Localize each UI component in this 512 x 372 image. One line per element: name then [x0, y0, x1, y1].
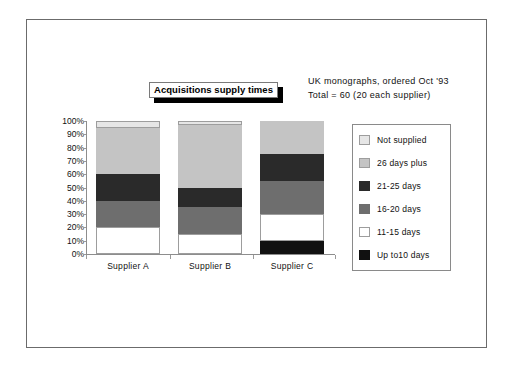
bar-segment[interactable] — [96, 201, 160, 228]
page-title: Acquisitions supply times — [150, 83, 277, 97]
bar-segment[interactable] — [178, 125, 242, 188]
bar-segment[interactable] — [96, 128, 160, 175]
bar-segment[interactable] — [260, 154, 324, 181]
x-axis-label-supplier-b: Supplier B — [165, 260, 255, 272]
x-axis-label-supplier-c: Supplier C — [247, 260, 337, 272]
y-axis-tick-label: 40% — [52, 196, 84, 206]
legend-swatch-icon — [359, 227, 370, 237]
chart-legend: Not supplied26 days plus21-25 days16-20 … — [352, 124, 451, 271]
bar-supplier-c[interactable] — [260, 121, 324, 254]
bar-segment[interactable] — [96, 227, 160, 254]
legend-item-label: 26 days plus — [377, 158, 427, 168]
bar-segment[interactable] — [260, 121, 324, 154]
bar-segment[interactable] — [178, 121, 242, 125]
bar-segment[interactable] — [96, 174, 160, 201]
legend-item-label: Up to10 days — [377, 250, 430, 260]
x-axis-tick-mark — [170, 255, 171, 259]
bar-segment[interactable] — [260, 214, 324, 241]
legend-item-label: 16-20 days — [377, 204, 421, 214]
legend-swatch-icon — [359, 181, 370, 191]
y-axis-tick-label: 80% — [52, 143, 84, 153]
chart-title-box: Acquisitions supply times — [149, 82, 278, 98]
caption-line-1: UK monographs, ordered Oct '93 — [308, 74, 449, 88]
x-axis-label-supplier-a: Supplier A — [83, 260, 173, 272]
bar-supplier-b[interactable] — [178, 121, 242, 254]
bar-segment[interactable] — [96, 121, 160, 128]
y-axis-tick-labels: 0%10%20%30%40%50%60%70%80%90%100% — [52, 114, 84, 261]
bar-supplier-a[interactable] — [96, 121, 160, 254]
legend-item[interactable]: 16-20 days — [359, 203, 421, 215]
legend-item[interactable]: Not supplied — [359, 134, 427, 146]
y-axis-tick-label: 50% — [52, 183, 84, 193]
legend-swatch-icon — [359, 204, 370, 214]
legend-item-label: 11-15 days — [377, 227, 420, 237]
y-axis-tick-label: 0% — [52, 249, 84, 259]
legend-swatch-icon — [359, 250, 370, 260]
y-axis-tick-label: 100% — [52, 116, 84, 126]
y-axis-line — [86, 121, 87, 255]
bar-segment[interactable] — [178, 188, 242, 208]
legend-item-label: 21-25 days — [377, 181, 421, 191]
y-axis-tick-label: 20% — [52, 222, 84, 232]
legend-swatch-icon — [359, 135, 370, 145]
y-axis-tick-label: 70% — [52, 156, 84, 166]
x-axis-tick-mark — [86, 255, 87, 259]
legend-swatch-icon — [359, 158, 370, 168]
bar-segment[interactable] — [178, 207, 242, 234]
bar-segment[interactable] — [260, 181, 324, 214]
y-axis-tick-label: 30% — [52, 209, 84, 219]
y-axis-tick-label: 10% — [52, 236, 84, 246]
x-axis-tick-mark — [253, 255, 254, 259]
plot-area — [88, 121, 320, 254]
bar-segment[interactable] — [178, 234, 242, 254]
y-axis-tick-label: 90% — [52, 129, 84, 139]
y-axis-tick-label: 60% — [52, 169, 84, 179]
legend-item-label: Not supplied — [377, 135, 427, 145]
legend-item[interactable]: Up to10 days — [359, 249, 430, 261]
x-axis-line — [86, 254, 335, 255]
bar-segment[interactable] — [260, 241, 324, 254]
caption-line-2: Total = 60 (20 each supplier) — [308, 88, 449, 102]
x-axis-category-labels: Supplier ASupplier BSupplier C — [86, 260, 336, 276]
legend-item[interactable]: 26 days plus — [359, 157, 427, 169]
legend-item[interactable]: 11-15 days — [359, 226, 420, 238]
legend-item[interactable]: 21-25 days — [359, 180, 421, 192]
chart-caption: UK monographs, ordered Oct '93 Total = 6… — [308, 74, 449, 102]
x-axis-tick-mark — [335, 255, 336, 259]
